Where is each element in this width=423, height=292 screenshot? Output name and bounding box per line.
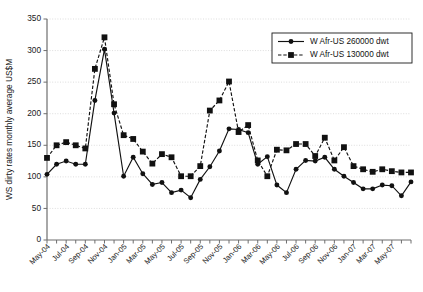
x-tick-label: Sep-06 [296, 242, 320, 266]
data-point [178, 173, 184, 179]
data-point [294, 167, 299, 172]
data-point [303, 141, 309, 147]
legend-marker-square [288, 52, 294, 58]
data-point [331, 158, 337, 164]
y-axis-title: WS dirty rates monthly average US$M [4, 59, 14, 200]
data-point [198, 177, 203, 182]
data-point [169, 190, 174, 195]
y-axis-ticks: 050100150200250300350 [27, 13, 47, 244]
data-point [149, 161, 155, 167]
data-point [64, 159, 69, 164]
data-point [121, 132, 127, 138]
series-line [47, 49, 411, 197]
data-point [255, 158, 261, 164]
data-point [409, 179, 414, 184]
data-point [322, 155, 327, 160]
x-tick-label: Jan-05 [106, 242, 129, 265]
data-point [380, 183, 385, 188]
y-tick-label: 350 [27, 13, 41, 23]
data-point [264, 173, 270, 179]
data-point [207, 164, 212, 169]
y-tick-label: 50 [32, 203, 42, 213]
data-point [83, 162, 88, 167]
legend-label: W Afr-US 260000 dwt [310, 37, 389, 46]
data-point [399, 170, 405, 176]
data-point [312, 153, 318, 159]
data-point [361, 186, 366, 191]
data-point [351, 163, 357, 169]
data-point [44, 155, 50, 161]
legend: W Afr-US 260000 dwtW Afr-US 130000 dwt [272, 33, 412, 63]
data-point [111, 101, 117, 107]
x-tick-label: Jan-07 [336, 242, 359, 265]
data-point [284, 190, 289, 195]
x-tick-label: May-06 [258, 242, 282, 266]
data-point [82, 146, 88, 152]
data-point [389, 168, 395, 174]
data-point [102, 34, 108, 40]
data-point [217, 98, 223, 104]
data-point [169, 154, 175, 160]
data-point [274, 183, 279, 188]
data-point [130, 136, 136, 142]
legend-label: W Afr-US 130000 dwt [310, 50, 389, 59]
data-point [188, 173, 194, 179]
data-point [160, 180, 165, 185]
data-point [73, 162, 78, 167]
data-point [63, 139, 69, 145]
data-point [140, 171, 145, 176]
x-tick-label: May-07 [372, 242, 396, 266]
x-tick-label: Sep-05 [181, 242, 205, 266]
legend-marker-circle [289, 39, 294, 44]
data-point [399, 193, 404, 198]
x-tick-label: Sep-04 [67, 242, 91, 266]
y-tick-label: 300 [27, 45, 41, 55]
data-point [360, 166, 366, 172]
data-point [140, 149, 146, 155]
data-point [322, 135, 328, 141]
data-point [217, 149, 222, 154]
data-point [159, 151, 165, 157]
x-tick-label: Nov-05 [201, 242, 225, 266]
data-point [245, 122, 251, 128]
data-point [73, 142, 79, 148]
data-point [293, 141, 299, 147]
chart-container: 050100150200250300350May-04Jul-04Sep-04N… [0, 0, 423, 292]
data-point [121, 174, 126, 179]
x-tick-label: Jan-06 [221, 242, 244, 265]
data-point [54, 142, 60, 148]
data-point [342, 174, 347, 179]
x-tick-label: Nov-04 [86, 242, 110, 266]
data-point [265, 154, 270, 159]
line-chart: 050100150200250300350May-04Jul-04Sep-04N… [0, 0, 423, 292]
y-tick-label: 200 [27, 108, 41, 118]
data-point [341, 144, 347, 150]
data-point [150, 182, 155, 187]
data-point [131, 155, 136, 160]
data-point [45, 172, 50, 177]
data-point [303, 158, 308, 163]
y-tick-label: 150 [27, 139, 41, 149]
x-axis-ticks: May-04Jul-04Sep-04Nov-04Jan-05Mar-05May-… [28, 240, 411, 266]
x-tick-label: May-05 [143, 242, 167, 266]
data-point [92, 98, 97, 103]
data-point [332, 167, 337, 172]
data-point [351, 180, 356, 185]
data-point [389, 183, 394, 188]
y-tick-label: 100 [27, 171, 41, 181]
data-point [197, 163, 203, 169]
data-point [236, 129, 242, 135]
data-point [370, 169, 376, 175]
y-tick-label: 0 [36, 234, 41, 244]
data-point [379, 166, 385, 172]
data-point [313, 159, 318, 164]
x-tick-label: Nov-06 [316, 242, 340, 266]
data-point [408, 170, 414, 176]
data-point [226, 79, 232, 85]
data-point [92, 66, 98, 72]
data-point [370, 186, 375, 191]
data-point [179, 188, 184, 193]
x-tick-label: May-04 [28, 242, 52, 266]
data-point [188, 195, 193, 200]
data-point [274, 147, 280, 153]
